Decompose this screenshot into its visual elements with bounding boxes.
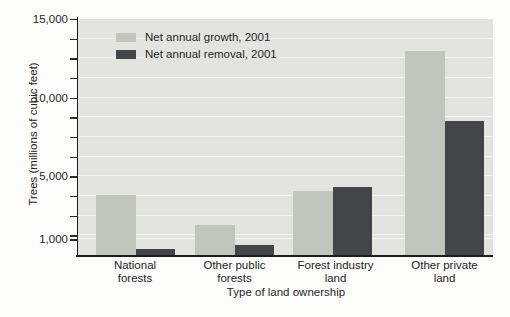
x-axis-title: Type of land ownership — [196, 286, 376, 298]
y-tick — [70, 157, 77, 158]
legend: Net annual growth, 2001 Net annual remov… — [116, 31, 277, 65]
bar-growth-forest-industry-land — [293, 191, 333, 256]
y-tick — [70, 216, 77, 217]
legend-swatch-growth-icon — [116, 33, 136, 42]
y-tick-label: 1,000 — [6, 232, 68, 246]
x-category-label-forest-industry-land: Forest industryland — [288, 259, 384, 285]
bar-growth-other-private-land — [405, 51, 445, 256]
bar-growth-national-forests — [96, 195, 136, 255]
y-tick-label: 5,000 — [6, 169, 68, 183]
bar-group-other-public-forests — [195, 225, 274, 255]
bar-removal-forest-industry-land — [333, 187, 372, 255]
y-tick — [70, 176, 77, 177]
y-tick — [70, 235, 77, 236]
bar-removal-other-private-land — [445, 121, 484, 255]
bar-removal-other-public-forests — [235, 245, 274, 255]
y-tick — [70, 196, 77, 197]
y-tick — [70, 78, 77, 79]
y-tick — [70, 117, 77, 118]
x-category-label-national-forests: Nationalforests — [87, 259, 183, 285]
legend-swatch-removal-icon — [116, 50, 136, 59]
y-tick — [70, 58, 77, 59]
bar-group-national-forests — [96, 195, 175, 255]
y-tick — [70, 137, 77, 138]
x-axis-line — [76, 255, 493, 257]
y-tick — [70, 98, 77, 99]
legend-label-removal: Net annual removal, 2001 — [145, 48, 277, 60]
bar-group-other-private-land — [405, 51, 484, 256]
y-tick — [70, 19, 77, 20]
bar-growth-other-public-forests — [195, 225, 235, 255]
y-tick — [70, 39, 77, 40]
y-tick-label: 10,000 — [6, 91, 68, 105]
figure: Trees (millions of cubic feet) 1,0005,00… — [0, 0, 510, 317]
y-tick — [70, 239, 77, 240]
legend-item-growth: Net annual growth, 2001 — [116, 31, 277, 43]
bar-group-forest-industry-land — [293, 187, 372, 255]
x-category-label-other-public-forests: Other publicforests — [187, 259, 283, 285]
x-category-label-other-private-land: Other privateland — [397, 259, 493, 285]
legend-label-growth: Net annual growth, 2001 — [145, 31, 270, 43]
y-tick-label: 15,000 — [6, 12, 68, 26]
legend-item-removal: Net annual removal, 2001 — [116, 48, 277, 60]
y-axis-title: Trees (millions of cubic feet) — [27, 49, 39, 219]
